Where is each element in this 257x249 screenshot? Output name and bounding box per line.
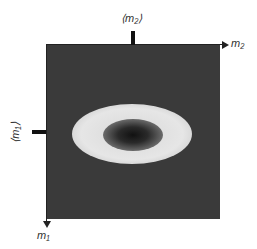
m2-axis-arrow-icon <box>222 41 229 49</box>
inner-dark-core <box>103 119 163 151</box>
m1-axis-arrow-icon <box>43 221 51 228</box>
mean-m2-tick <box>131 31 135 45</box>
density-plot <box>46 45 220 219</box>
m1-axis-line <box>46 45 47 223</box>
m2-axis-line <box>46 44 224 45</box>
mean-m1-label: ⟨m₁⟩ <box>9 120 22 146</box>
m2-axis-label: m₂ <box>231 37 244 49</box>
m1-axis-label: m₁ <box>37 229 50 241</box>
mean-m2-label: ⟨m₂⟩ <box>121 12 142 25</box>
mean-m1-tick <box>32 130 46 134</box>
